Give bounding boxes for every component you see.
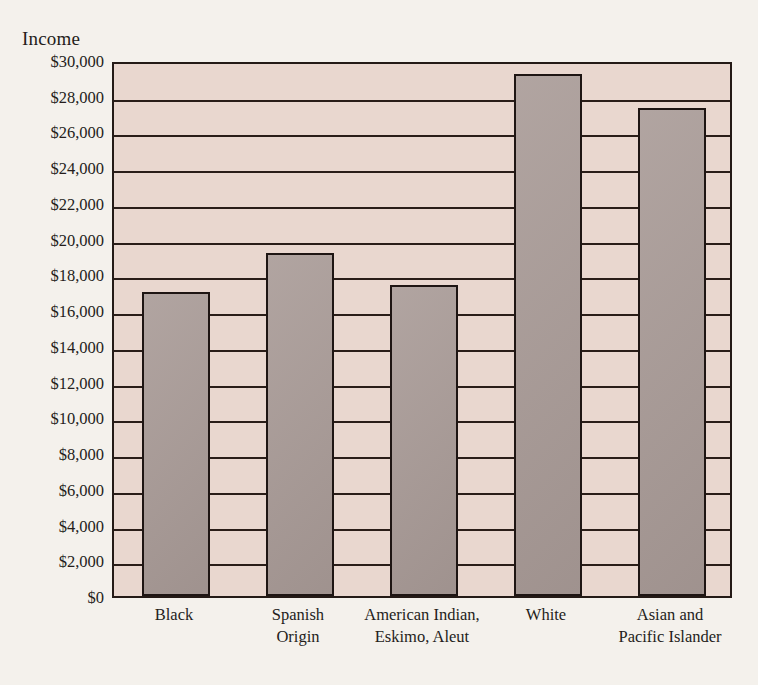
x-axis-tick-label-line2: Pacific Islander: [590, 626, 750, 648]
y-axis-tick-label: $4,000: [0, 518, 104, 535]
bar: [266, 253, 334, 596]
y-axis-tick-label: $14,000: [0, 340, 104, 357]
bar-chart: Income $30,000$28,000$26,000$24,000$22,0…: [0, 0, 758, 685]
x-axis-tick-label-line1: American Indian,: [364, 605, 479, 624]
y-axis-tick-label: $22,000: [0, 197, 104, 214]
gridline: [114, 100, 730, 102]
y-axis-tick-label: $6,000: [0, 483, 104, 500]
y-axis-tick-label: $16,000: [0, 304, 104, 321]
y-axis-tick-label: $10,000: [0, 411, 104, 428]
y-axis-tick-label: $18,000: [0, 268, 104, 285]
x-axis-tick-label-line2: Eskimo, Aleut: [342, 626, 502, 648]
plot-area: [112, 62, 732, 598]
y-axis-tick-label: $20,000: [0, 232, 104, 249]
y-axis-tick-label: $2,000: [0, 554, 104, 571]
y-axis-tick-label: $8,000: [0, 447, 104, 464]
x-axis-tick-label-line1: Black: [155, 605, 194, 624]
y-axis-title: Income: [22, 28, 80, 50]
y-axis-tick-label: $12,000: [0, 375, 104, 392]
bar: [514, 74, 582, 596]
y-axis-tick-label: $28,000: [0, 89, 104, 106]
bar: [142, 292, 210, 596]
x-axis-tick-label-line1: White: [526, 605, 566, 624]
y-axis-tick-label: $0: [0, 590, 104, 607]
x-axis-tick-label-line1: Asian and: [637, 605, 703, 624]
y-axis-tick-label: $30,000: [0, 54, 104, 71]
y-axis-tick-labels: $30,000$28,000$26,000$24,000$22,000$20,0…: [0, 62, 104, 598]
bar: [638, 108, 706, 596]
y-axis-tick-label: $26,000: [0, 125, 104, 142]
x-axis-tick-labels: BlackSpanishOriginAmerican Indian,Eskimo…: [112, 604, 732, 674]
bar: [390, 285, 458, 596]
x-axis-tick-label: Asian andPacific Islander: [590, 604, 750, 648]
y-axis-tick-label: $24,000: [0, 161, 104, 178]
x-axis-tick-label-line1: Spanish: [272, 605, 324, 624]
